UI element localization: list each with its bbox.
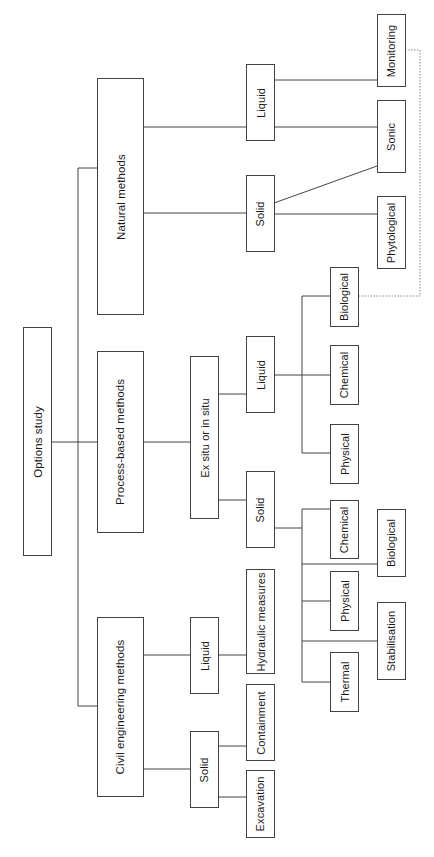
node-label: Stabilisation: [386, 611, 398, 672]
node-natural-liquid: Liquid: [246, 64, 275, 141]
options-study-tree-diagram: Options study Natural methods Process-ba…: [0, 0, 434, 857]
node-solid-physical: Physical: [330, 571, 359, 631]
node-monitoring: Monitoring: [377, 14, 406, 87]
node-hydraulic-measures: Hydraulic measures: [246, 569, 275, 674]
node-civil-liquid: Liquid: [190, 617, 219, 694]
node-natural-solid: Solid: [246, 175, 275, 252]
node-label: Thermal: [339, 661, 351, 702]
node-label: Civil engineering methods: [115, 640, 127, 775]
node-process-liquid: Liquid: [246, 336, 275, 413]
node-label: Solid: [199, 757, 211, 782]
node-civil-engineering-methods: Civil engineering methods: [97, 617, 144, 797]
node-ex-situ-or-in-situ: Ex situ or in situ: [190, 356, 219, 519]
node-label: Containment: [255, 691, 267, 754]
node-excavation: Excavation: [246, 770, 275, 838]
node-label: Chemical: [339, 352, 351, 399]
node-label: Liquid: [199, 641, 211, 671]
node-liquid-chemical: Chemical: [330, 345, 359, 405]
node-process-solid: Solid: [246, 471, 275, 548]
node-label: Biological: [339, 273, 351, 321]
node-label: Ex situ or in situ: [199, 398, 211, 477]
node-label: Liquid: [255, 360, 267, 390]
node-label: Sonic: [386, 122, 398, 150]
node-label: Biological: [386, 519, 398, 567]
node-sonic: Sonic: [377, 100, 406, 173]
node-label: Physical: [339, 580, 351, 622]
node-natural-methods: Natural methods: [97, 78, 144, 315]
node-phytological: Phytological: [377, 196, 406, 269]
node-label: Excavation: [255, 777, 267, 832]
node-label: Chemical: [339, 506, 351, 553]
node-label: Monitoring: [386, 24, 398, 76]
node-label: Hydraulic measures: [255, 572, 267, 671]
node-options-study: Options study: [23, 327, 52, 556]
node-label: Physical: [339, 433, 351, 475]
node-label: Solid: [255, 201, 267, 226]
node-solid-thermal: Thermal: [330, 652, 359, 712]
node-civil-solid: Solid: [190, 731, 219, 808]
node-process-based-methods: Process-based methods: [97, 351, 144, 533]
node-label: Process-based methods: [115, 379, 127, 505]
node-label: Options study: [32, 406, 44, 478]
node-label: Phytological: [386, 202, 398, 263]
node-solid-chemical: Chemical: [330, 500, 359, 559]
node-label: Natural methods: [115, 154, 127, 240]
node-solid-stabilisation: Stabilisation: [377, 602, 406, 680]
node-liquid-physical: Physical: [330, 424, 359, 484]
node-liquid-biological: Biological: [330, 267, 359, 327]
node-label: Liquid: [255, 88, 267, 118]
node-solid-biological: Biological: [377, 509, 406, 577]
node-label: Solid: [255, 497, 267, 522]
node-containment: Containment: [246, 684, 275, 761]
